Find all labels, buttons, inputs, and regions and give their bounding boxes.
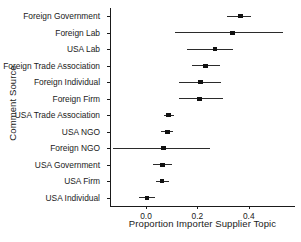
y-axis-category-label: Foreign Government: [0, 12, 100, 21]
data-point-marker: [238, 14, 242, 18]
x-axis-title: Proportion Importer Supplier Topic: [110, 218, 295, 230]
data-point-marker: [160, 163, 164, 167]
data-point-marker: [213, 47, 217, 51]
data-point-marker: [165, 130, 169, 134]
y-axis-category-label: USA Individual: [0, 193, 100, 202]
y-axis-tick: [107, 33, 110, 34]
y-axis-tick: [107, 148, 110, 149]
y-axis-category-label: Foreign NGO: [0, 144, 100, 153]
y-axis-category-label: Foreign Firm: [0, 94, 100, 103]
y-axis-category-label: Foreign Trade Association: [0, 61, 100, 70]
x-axis-tick: [146, 206, 147, 209]
y-axis-tick: [107, 165, 110, 166]
y-axis-tick: [107, 198, 110, 199]
y-axis-category-label: USA Government: [0, 160, 100, 169]
x-axis-tick: [249, 206, 250, 209]
y-axis-category-label: USA NGO: [0, 127, 100, 136]
y-axis-category-label: USA Lab: [0, 45, 100, 54]
data-point-marker: [203, 64, 207, 68]
confidence-interval-line: [175, 32, 283, 33]
y-axis-category-label: USA Trade Association: [0, 111, 100, 120]
data-point-marker: [197, 97, 201, 101]
data-point-marker: [160, 179, 164, 183]
data-point-marker: [161, 146, 165, 150]
y-axis-tick: [107, 99, 110, 100]
plot-area: Foreign GovernmentForeign LabUSA LabFore…: [110, 8, 295, 206]
dot-plot-chart: Comment Source Foreign GovernmentForeign…: [0, 0, 301, 242]
y-axis-tick: [107, 132, 110, 133]
y-axis-tick: [107, 181, 110, 182]
y-axis-tick: [107, 49, 110, 50]
y-axis-category-label: Foreign Individual: [0, 78, 100, 87]
y-axis-category-label: USA Firm: [0, 177, 100, 186]
data-point-marker: [198, 80, 202, 84]
y-axis-spine: [110, 8, 111, 206]
y-axis-tick: [107, 16, 110, 17]
y-axis-tick: [107, 115, 110, 116]
x-axis-spine: [110, 206, 295, 207]
data-point-marker: [230, 31, 234, 35]
y-axis-tick: [107, 82, 110, 83]
y-axis-category-label: Foreign Lab: [0, 28, 100, 37]
confidence-interval-line: [187, 49, 233, 50]
x-axis-tick: [197, 206, 198, 209]
data-point-marker: [166, 113, 170, 117]
y-axis-tick: [107, 66, 110, 67]
data-point-marker: [145, 196, 149, 200]
